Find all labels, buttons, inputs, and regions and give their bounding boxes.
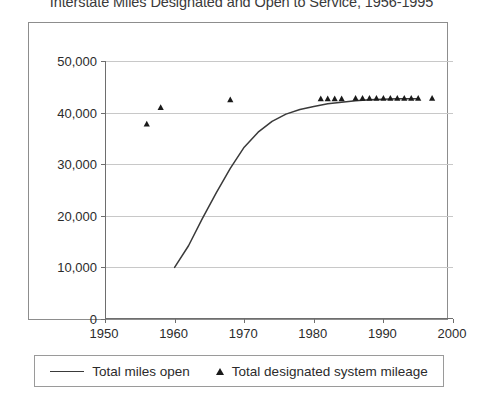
series-marker-designated-mileage (366, 95, 372, 101)
series-marker-designated-mileage (318, 96, 324, 102)
x-axis-tick-label: 1960 (159, 326, 188, 341)
y-axis-tick-labels: 010,00020,00030,00040,00050,000 (29, 61, 97, 319)
y-axis-tick-label: 0 (90, 312, 97, 327)
series-marker-designated-mileage (325, 96, 331, 102)
legend-entry-total-designated-system-mileage: Total designated system mileage (216, 364, 428, 379)
chart-screenshot: Interstate Miles Designated and Open to … (0, 0, 483, 406)
series-marker-designated-mileage (144, 121, 150, 127)
series-marker-designated-mileage (401, 95, 407, 101)
series-marker-designated-mileage (373, 95, 379, 101)
x-axis-tick-label: 1990 (368, 326, 397, 341)
chart-title: Interstate Miles Designated and Open to … (0, 0, 483, 10)
plot-frame: 010,00020,00030,00040,00050,000 (28, 22, 448, 320)
series-marker-designated-mileage (359, 95, 365, 101)
x-axis-tick-label: 1980 (298, 326, 327, 341)
y-axis-tick-label: 40,000 (57, 105, 97, 120)
y-axis-tick-label: 20,000 (57, 208, 97, 223)
x-axis-tick (453, 319, 454, 323)
series-marker-designated-mileage (429, 95, 435, 101)
x-axis-tick (314, 319, 315, 323)
series-marker-designated-mileage (415, 95, 421, 101)
legend-label: Total miles open (92, 364, 190, 379)
series-marker-designated-mileage (387, 95, 393, 101)
series-marker-designated-mileage (339, 96, 345, 102)
x-axis-tick-label: 1950 (90, 326, 119, 341)
series-layer (105, 61, 453, 319)
triangle-swatch-icon (216, 368, 224, 375)
x-axis-tick-label: 1970 (229, 326, 258, 341)
plot-area (105, 61, 453, 319)
series-marker-designated-mileage (394, 95, 400, 101)
series-line-total-miles-open (175, 99, 419, 268)
legend-entry-total-miles-open: Total miles open (50, 364, 190, 379)
x-axis-tick (175, 319, 176, 323)
series-marker-designated-mileage (158, 104, 164, 110)
series-marker-designated-mileage (380, 95, 386, 101)
x-axis-tick (244, 319, 245, 323)
legend-label: Total designated system mileage (232, 364, 428, 379)
y-axis-tick-label: 30,000 (57, 157, 97, 172)
y-axis-tick-label: 50,000 (57, 54, 97, 69)
series-marker-designated-mileage (408, 95, 414, 101)
x-axis-tick-labels: 195019601970198019902000 (104, 326, 452, 344)
line-swatch-icon (50, 371, 84, 372)
y-axis-tick-label: 10,000 (57, 260, 97, 275)
x-axis-tick (105, 319, 106, 323)
x-axis-tick (383, 319, 384, 323)
x-axis-tick-label: 2000 (438, 326, 467, 341)
series-marker-designated-mileage (352, 95, 358, 101)
series-marker-designated-mileage (332, 96, 338, 102)
series-marker-designated-mileage (227, 97, 233, 103)
chart-legend: Total miles open Total designated system… (34, 355, 444, 387)
